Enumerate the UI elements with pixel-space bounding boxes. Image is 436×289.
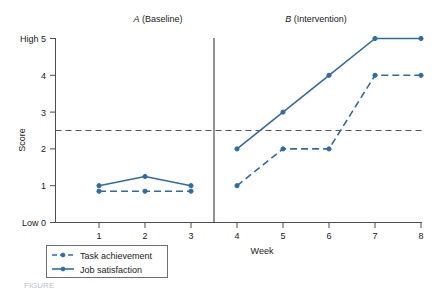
data-point-marker[interactable] — [235, 184, 239, 188]
data-point-marker[interactable] — [97, 189, 101, 193]
data-point-marker[interactable] — [327, 147, 331, 151]
data-point-marker[interactable] — [327, 73, 331, 77]
data-point-marker[interactable] — [143, 189, 147, 193]
data-point-marker[interactable] — [373, 73, 377, 77]
phase-b-label: (Intervention) — [291, 14, 347, 24]
phase-a-label: (Baseline) — [139, 14, 182, 24]
legend-label-job-satisfaction: Job satisfaction — [80, 265, 142, 275]
x-tick-label-2: 2 — [142, 231, 147, 241]
y-tick-label-2: 2 — [41, 144, 46, 154]
y-tick-label-3: 3 — [41, 108, 46, 118]
x-tick-label-1: 1 — [96, 231, 101, 241]
figure-container: A (Baseline) B (Intervention) High 5 4 3… — [0, 0, 436, 289]
figure-caption: FIGURE — [24, 281, 54, 289]
y-tick-label-1: 1 — [41, 181, 46, 191]
data-point-marker[interactable] — [281, 110, 285, 114]
phase-b-title: B (Intervention) — [285, 14, 347, 24]
x-tick-label-7: 7 — [372, 231, 377, 241]
ab-design-line-chart: A (Baseline) B (Intervention) High 5 4 3… — [0, 0, 436, 289]
y-tick-label-4: 4 — [41, 71, 46, 81]
data-point-marker[interactable] — [373, 36, 377, 40]
data-point-marker[interactable] — [143, 174, 147, 178]
data-point-marker[interactable] — [97, 184, 101, 188]
legend-marker-solid — [61, 267, 65, 271]
x-tick-label-3: 3 — [188, 231, 193, 241]
data-point-marker[interactable] — [189, 184, 193, 188]
data-point-marker[interactable] — [235, 147, 239, 151]
legend-marker-dashed — [61, 253, 65, 257]
data-point-marker[interactable] — [189, 189, 193, 193]
x-axis-title: Week — [251, 246, 274, 256]
x-tick-label-5: 5 — [280, 231, 285, 241]
x-tick-label-4: 4 — [234, 231, 239, 241]
y-tick-label-5: High 5 — [20, 34, 46, 44]
data-point-marker[interactable] — [419, 73, 423, 77]
phase-a-title: A (Baseline) — [132, 14, 182, 24]
y-axis-title: Score — [17, 128, 27, 152]
data-point-marker[interactable] — [419, 36, 423, 40]
data-point-marker[interactable] — [281, 147, 285, 151]
phase-a-letter: A — [132, 14, 139, 24]
x-tick-label-6: 6 — [326, 231, 331, 241]
legend-label-task-achievement: Task achievement — [80, 251, 153, 261]
y-tick-label-0: Low 0 — [22, 218, 46, 228]
x-tick-label-8: 8 — [418, 231, 423, 241]
